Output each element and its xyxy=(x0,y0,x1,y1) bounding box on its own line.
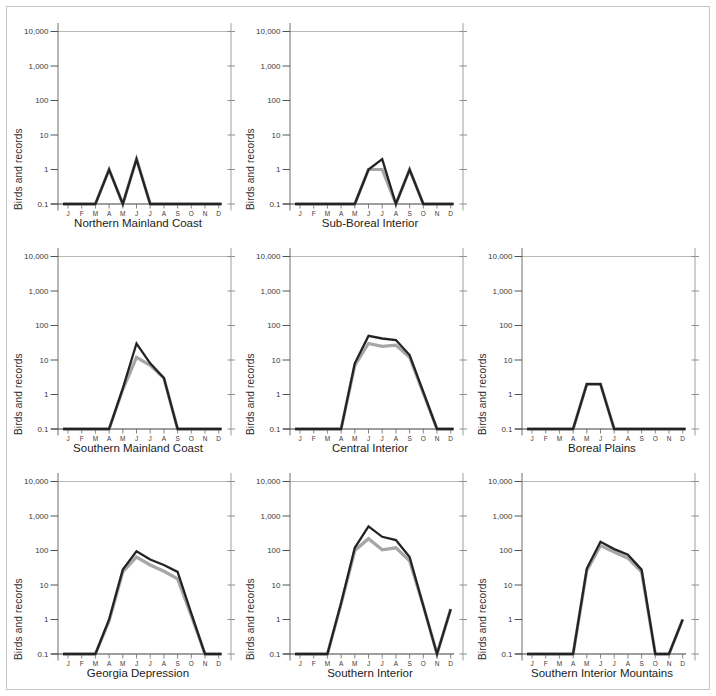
month-label: A xyxy=(394,660,399,667)
month-label: J xyxy=(298,435,301,442)
month-label: D xyxy=(216,660,221,667)
month-label: J xyxy=(135,660,138,667)
black-series-line xyxy=(527,542,683,654)
y-tick-label: 10,000 xyxy=(488,252,513,261)
month-label: O xyxy=(421,210,426,217)
month-label: M xyxy=(352,210,357,217)
month-label: S xyxy=(407,660,412,667)
y-tick-label: 0.1 xyxy=(269,650,281,659)
month-label: J xyxy=(367,435,370,442)
y-tick-label: 1,000 xyxy=(260,62,281,71)
month-label: O xyxy=(189,660,194,667)
month-label: A xyxy=(107,660,112,667)
month-label: J xyxy=(135,435,138,442)
month-label: S xyxy=(175,660,180,667)
y-tick-label: 100 xyxy=(35,546,49,555)
month-label: N xyxy=(667,660,672,667)
month-label: A xyxy=(162,210,167,217)
month-label: M xyxy=(557,660,562,667)
month-label: A xyxy=(162,435,167,442)
y-tick-label: 1 xyxy=(508,390,513,399)
y-tick-label: 0.1 xyxy=(37,425,49,434)
month-label: D xyxy=(680,435,685,442)
black-series-line xyxy=(295,336,454,429)
month-label: N xyxy=(435,210,440,217)
month-label: O xyxy=(653,435,658,442)
month-label: F xyxy=(544,435,548,442)
y-axis-label: Birds and records xyxy=(13,24,24,210)
month-label: O xyxy=(189,435,194,442)
chart-canvas: 10,0001,0001001010.1JFMAMJJASOND xyxy=(472,460,704,685)
month-label: J xyxy=(135,210,138,217)
y-tick-label: 0.1 xyxy=(269,425,281,434)
month-label: J xyxy=(599,660,602,667)
month-label: D xyxy=(680,660,685,667)
y-tick-label: 1 xyxy=(276,615,281,624)
month-label: N xyxy=(435,660,440,667)
chart-title: Southern Interior Mountains xyxy=(500,667,704,679)
month-label: J xyxy=(599,435,602,442)
y-tick-label: 10,000 xyxy=(24,477,49,486)
month-label: S xyxy=(175,210,180,217)
month-label: N xyxy=(203,660,208,667)
month-label: F xyxy=(312,660,316,667)
month-label: M xyxy=(325,210,330,217)
month-label: J xyxy=(149,210,152,217)
month-label: M xyxy=(120,435,125,442)
chart-canvas: 10,0001,0001001010.1JFMAMJJASOND xyxy=(8,460,240,685)
month-label: A xyxy=(571,660,576,667)
chart-panel-sub-boreal-interior: 10,0001,0001001010.1JFMAMJJASOND Birds a… xyxy=(240,10,472,235)
month-label: M xyxy=(93,210,98,217)
month-label: J xyxy=(367,210,370,217)
month-label: D xyxy=(448,435,453,442)
y-tick-label: 10,000 xyxy=(488,477,513,486)
month-label: J xyxy=(298,660,301,667)
month-label: M xyxy=(584,660,589,667)
y-tick-label: 1,000 xyxy=(260,287,281,296)
y-tick-label: 10 xyxy=(40,131,49,140)
chart-title: Georgia Depression xyxy=(36,667,240,679)
month-label: M xyxy=(352,660,357,667)
month-label: D xyxy=(216,435,221,442)
y-tick-label: 100 xyxy=(267,96,281,105)
y-tick-label: 10,000 xyxy=(24,27,49,36)
month-label: A xyxy=(107,435,112,442)
month-label: A xyxy=(107,210,112,217)
month-label: A xyxy=(571,435,576,442)
month-label: N xyxy=(203,435,208,442)
y-tick-label: 0.1 xyxy=(269,200,281,209)
y-tick-label: 10,000 xyxy=(256,27,281,36)
y-tick-label: 0.1 xyxy=(501,650,513,659)
month-label: O xyxy=(189,210,194,217)
month-label: M xyxy=(325,435,330,442)
chart-panel-central-interior: 10,0001,0001001010.1JFMAMJJASOND Birds a… xyxy=(240,235,472,460)
month-label: A xyxy=(626,435,631,442)
y-tick-label: 1,000 xyxy=(28,512,49,521)
chart-canvas: 10,0001,0001001010.1JFMAMJJASOND xyxy=(472,235,704,460)
month-label: F xyxy=(80,435,84,442)
chart-panel-northern-mainland-coast: 10,0001,0001001010.1JFMAMJJASOND Birds a… xyxy=(8,10,240,235)
month-label: M xyxy=(120,660,125,667)
month-label: D xyxy=(216,210,221,217)
chart-panel-southern-interior-mountains: 10,0001,0001001010.1JFMAMJJASOND Birds a… xyxy=(472,460,704,685)
chart-canvas: 10,0001,0001001010.1JFMAMJJASOND xyxy=(240,235,472,460)
month-label: J xyxy=(381,660,384,667)
y-tick-label: 10,000 xyxy=(256,252,281,261)
black-series-line xyxy=(63,159,222,204)
month-label: O xyxy=(421,435,426,442)
y-tick-label: 1 xyxy=(44,390,49,399)
y-tick-label: 1 xyxy=(44,615,49,624)
y-tick-label: 1,000 xyxy=(492,287,513,296)
y-tick-label: 0.1 xyxy=(37,650,49,659)
y-tick-label: 100 xyxy=(499,321,513,330)
gray-series-line xyxy=(295,170,454,205)
chart-canvas: 10,0001,0001001010.1JFMAMJJASOND xyxy=(8,235,240,460)
chart-grid: 10,0001,0001001010.1JFMAMJJASOND Birds a… xyxy=(8,10,704,685)
month-label: S xyxy=(175,435,180,442)
y-tick-label: 10 xyxy=(40,581,49,590)
black-series-line xyxy=(295,526,451,654)
y-tick-label: 1,000 xyxy=(260,512,281,521)
month-label: S xyxy=(639,435,644,442)
y-tick-label: 1,000 xyxy=(28,62,49,71)
chart-title: Southern Mainland Coast xyxy=(36,442,240,454)
